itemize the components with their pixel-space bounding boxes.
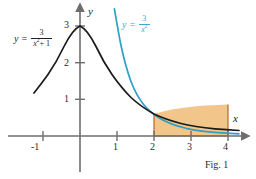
curve-blue-label-fraction: 3 x2	[139, 15, 149, 34]
x-tick-label-1: 1	[113, 142, 118, 152]
curve-blue-label-numerator: 3	[139, 15, 149, 23]
x-tick-label--1: -1	[31, 142, 39, 152]
curve-black-label-denominator: x2+ 1	[31, 39, 52, 48]
curve-blue-label-lhs: y =	[122, 19, 136, 30]
y-tick-label-2: 2	[64, 58, 69, 68]
y-tick-label-3: 3	[64, 20, 69, 30]
y-axis-label: y	[88, 6, 93, 17]
x-axis-label: x	[233, 113, 238, 124]
figure-container: y = 3 x2+ 1 y = 3 x2 -1 1 2 3 4 1 2 3 x …	[0, 0, 256, 179]
x-tick-label-4: 4	[223, 142, 228, 152]
curve-black-label: y = 3 x2+ 1	[14, 30, 53, 49]
curve-black-label-fraction: 3 x2+ 1	[31, 29, 52, 48]
denominator-tail: + 1	[40, 39, 51, 48]
curve-black-label-numerator: 3	[31, 29, 52, 37]
x-tick-label-3: 3	[187, 142, 192, 152]
denominator-exponent: 2	[145, 23, 148, 29]
x-tick-label-2: 2	[150, 142, 155, 152]
curve-black-label-lhs: y =	[14, 33, 28, 44]
curve-blue-label: y = 3 x2	[122, 16, 151, 35]
y-tick-label-1: 1	[64, 94, 69, 104]
curve-blue-label-denominator: x2	[139, 25, 149, 34]
figure-caption: Fig. 1	[205, 160, 228, 170]
